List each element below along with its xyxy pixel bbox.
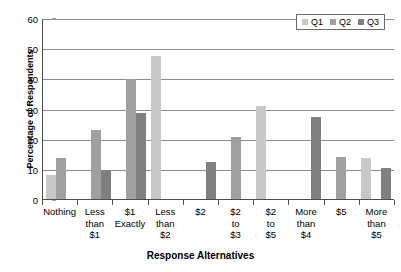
x-tick-mark	[359, 200, 360, 205]
bar-slot	[126, 19, 136, 200]
bar-group	[254, 19, 289, 200]
bar	[136, 113, 146, 200]
bar-group	[289, 19, 324, 200]
bar-slot	[161, 19, 171, 200]
x-category-label-line: More	[288, 206, 323, 218]
x-category-label: $1Exactly	[112, 206, 147, 241]
bar	[336, 157, 346, 200]
legend-swatch-icon	[358, 19, 364, 25]
x-category-label: $2	[183, 206, 218, 241]
x-category-label-line: Less	[77, 206, 112, 218]
x-category-label: Morethan$4	[288, 206, 323, 241]
bar-group	[324, 19, 359, 200]
bar-slot	[301, 19, 311, 200]
x-category-label-line: than	[148, 218, 183, 230]
bar	[56, 158, 66, 200]
x-axis-category-labels: NothingLessthan$1$1ExactlyLessthan$2$2$2…	[42, 206, 394, 241]
bar-slot	[326, 19, 336, 200]
x-category-label-line: $5	[324, 206, 359, 218]
bar-slot	[206, 19, 216, 200]
legend-label: Q2	[339, 17, 351, 27]
bar-slot	[221, 19, 231, 200]
x-category-label: Nothing	[42, 206, 77, 241]
bar-slot	[256, 19, 266, 200]
bar	[101, 170, 111, 200]
x-category-label-line: Nothing	[42, 206, 77, 218]
bar-group	[113, 19, 148, 200]
x-axis-title: Response Alternatives	[0, 250, 401, 261]
bar	[91, 130, 101, 200]
bar-slot	[91, 19, 101, 200]
x-category-label-line: to	[218, 218, 253, 230]
bar	[206, 162, 216, 200]
plot-area	[42, 19, 394, 200]
x-tick-mark	[394, 200, 395, 205]
bar-slot	[46, 19, 56, 200]
x-category-label-line: than	[359, 218, 394, 230]
y-tick-label: 60	[16, 14, 38, 25]
bar	[256, 106, 266, 200]
x-tick-mark	[148, 200, 149, 205]
bar-group	[218, 19, 253, 200]
x-category-label: $2to$5	[253, 206, 288, 241]
x-category-label-line: than	[288, 218, 323, 230]
legend-swatch-icon	[302, 19, 308, 25]
bar-group	[183, 19, 218, 200]
bar-slot	[151, 19, 161, 200]
x-tick-mark	[253, 200, 254, 205]
bar	[126, 79, 136, 200]
bar-slot	[101, 19, 111, 200]
bar-slot	[276, 19, 286, 200]
bar-slot	[186, 19, 196, 200]
y-tick-label: 0	[16, 195, 38, 206]
chart-legend: Q1Q2Q3	[296, 14, 385, 30]
x-category-label-line: $4	[288, 229, 323, 241]
x-category-label-line: than	[77, 218, 112, 230]
x-category-label: $5	[324, 206, 359, 241]
x-tick-mark	[324, 200, 325, 205]
bar-group	[78, 19, 113, 200]
bar-group	[148, 19, 183, 200]
x-category-label-line: $5	[359, 229, 394, 241]
bar-slot	[266, 19, 276, 200]
x-category-label: $2to$3	[218, 206, 253, 241]
bar-slot	[291, 19, 301, 200]
x-category-label-line: $2	[183, 206, 218, 218]
x-category-label-line: $2	[148, 229, 183, 241]
legend-item[interactable]: Q2	[330, 17, 351, 27]
x-category-label-line: to	[253, 218, 288, 230]
x-tick-mark	[112, 200, 113, 205]
x-category-label-line: $1	[112, 206, 147, 218]
legend-item[interactable]: Q1	[302, 17, 323, 27]
y-tick-label: 50	[16, 44, 38, 55]
bar-slot	[231, 19, 241, 200]
x-category-label: Morethan$5	[359, 206, 394, 241]
bar-slot	[361, 19, 371, 200]
y-tick-label: 40	[16, 74, 38, 85]
y-axis-tick-labels: 0102030405060	[14, 0, 38, 272]
x-category-label-line: $2	[253, 206, 288, 218]
bar	[46, 175, 56, 200]
x-category-label-line: More	[359, 206, 394, 218]
bar-slot	[136, 19, 146, 200]
x-tick-mark	[288, 200, 289, 205]
bar-slot	[171, 19, 181, 200]
legend-label: Q3	[367, 17, 379, 27]
x-category-label-line: $3	[218, 229, 253, 241]
x-tick-mark	[77, 200, 78, 205]
bar-slot	[371, 19, 381, 200]
x-tick-mark	[218, 200, 219, 205]
bar-slot	[336, 19, 346, 200]
bar-slot	[56, 19, 66, 200]
x-category-label-line: Exactly	[112, 218, 147, 230]
bar-group	[359, 19, 394, 200]
bar-slot	[196, 19, 206, 200]
bar-slot	[381, 19, 391, 200]
x-category-label-line: $2	[218, 206, 253, 218]
x-axis-tick-marks	[42, 200, 394, 205]
bar	[381, 168, 391, 200]
bar-slot	[81, 19, 91, 200]
x-tick-mark	[183, 200, 184, 205]
legend-item[interactable]: Q3	[358, 17, 379, 27]
x-tick-mark	[42, 200, 43, 205]
